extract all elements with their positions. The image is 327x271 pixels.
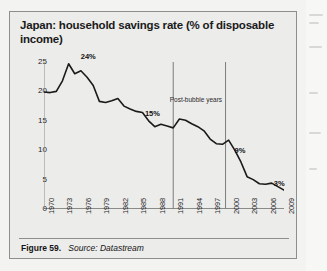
- x-axis-tick-label: 1988: [158, 198, 167, 214]
- annotation-post-bubble-years: Post-bubble years: [170, 96, 222, 103]
- annotation-24: 24%: [81, 52, 96, 61]
- annotation-3: 3%: [274, 179, 285, 188]
- annotation-15: 15%: [145, 109, 160, 118]
- figure-container: Japan: household savings rate (% of disp…: [9, 11, 297, 259]
- annotation-9: 9%: [235, 146, 246, 155]
- chart-svg: [44, 62, 284, 209]
- x-axis-tick-label: 2003: [250, 198, 259, 214]
- x-axis-tick-label: 1979: [102, 198, 111, 214]
- figure-caption: Figure 59. Source: Datastream: [21, 243, 144, 253]
- page-margin-artifacts: [306, 0, 327, 271]
- x-axis-tick-label: 2000: [232, 198, 241, 214]
- axis-lines: [44, 62, 284, 209]
- x-axis-tick-label: 1985: [139, 198, 148, 214]
- x-axis-tick-label: 2006: [269, 198, 278, 214]
- figure-number: Figure 59.: [21, 243, 61, 253]
- plot-area: [44, 62, 284, 209]
- data-series-lines: [44, 64, 284, 190]
- x-axis-tick-label: 1976: [84, 198, 93, 214]
- figure-source: Source: Datastream: [68, 243, 144, 253]
- x-axis-tick-label: 1973: [65, 198, 74, 214]
- x-axis-tick-label: 1994: [195, 198, 204, 214]
- caption-divider: [19, 238, 289, 239]
- x-axis-tick-label: 2009: [287, 198, 296, 214]
- x-axis-tick-label: 1970: [47, 198, 56, 214]
- reference-vertical-lines: [173, 62, 225, 209]
- series-line: [44, 64, 284, 190]
- x-axis-tick-label: 1982: [121, 198, 130, 214]
- x-axis-tick-label: 1991: [176, 198, 185, 214]
- x-axis-tick-label: 1997: [213, 198, 222, 214]
